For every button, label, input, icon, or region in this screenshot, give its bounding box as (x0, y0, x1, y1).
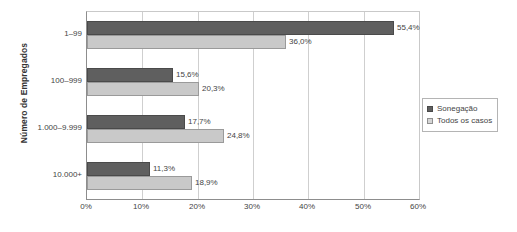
x-axis-tick-label: 60% (410, 202, 426, 211)
x-axis-tick-label: 20% (189, 202, 205, 211)
bar-group: 55,4%36,0% (87, 21, 419, 49)
x-axis-tick-label: 0% (80, 202, 92, 211)
bar-value-label: 24,8% (224, 129, 250, 143)
y-axis-tick-label: 1.000–9.999 (8, 123, 82, 132)
bar (87, 35, 286, 49)
chart-screenshot: Número de Empregados 1–99100–9991.000–9.… (0, 0, 517, 232)
legend-swatch-icon (427, 118, 433, 124)
bar-value-label: 11,3% (150, 162, 175, 176)
x-axis-tick-label: 40% (299, 202, 315, 211)
bar-value-label: 17,7% (185, 115, 211, 129)
x-axis-tick-label: 50% (355, 202, 371, 211)
bar (87, 68, 173, 82)
bar-group: 17,7%24,8% (87, 115, 419, 143)
bar (87, 176, 192, 190)
bar (87, 129, 224, 143)
chart-legend: SonegaçãoTodos os casos (422, 98, 498, 132)
bar (87, 115, 185, 129)
bar-group: 11,3%18,9% (87, 162, 419, 190)
x-axis-tick-labels: 0%10%20%30%40%50%60% (86, 202, 419, 218)
bar (87, 21, 394, 35)
bar (87, 162, 150, 176)
y-axis-tick-labels: 1–99100–9991.000–9.99910.000+ (0, 0, 82, 232)
bar-value-label: 15,6% (173, 68, 199, 82)
legend-item-label: Sonegação (437, 104, 477, 113)
legend-swatch-icon (427, 106, 433, 112)
plot-area: 55,4%36,0%15,6%20,3%17,7%24,8%11,3%18,9% (86, 11, 420, 200)
bar-group: 15,6%20,3% (87, 68, 419, 96)
y-axis-tick-label: 100–999 (8, 76, 82, 85)
bar (87, 82, 199, 96)
legend-item: Sonegação (427, 103, 492, 114)
x-axis-tick-label: 30% (244, 202, 260, 211)
bar-value-label: 36,0% (286, 35, 312, 49)
bar-value-label: 18,9% (192, 176, 218, 190)
bar-value-label: 55,4% (394, 21, 420, 35)
y-axis-tick-label: 10.000+ (8, 170, 82, 179)
y-axis-tick-label: 1–99 (8, 29, 82, 38)
x-axis-tick-label: 10% (133, 202, 149, 211)
legend-item-label: Todos os casos (437, 116, 492, 125)
bar-value-label: 20,3% (199, 82, 225, 96)
legend-item: Todos os casos (427, 115, 492, 126)
